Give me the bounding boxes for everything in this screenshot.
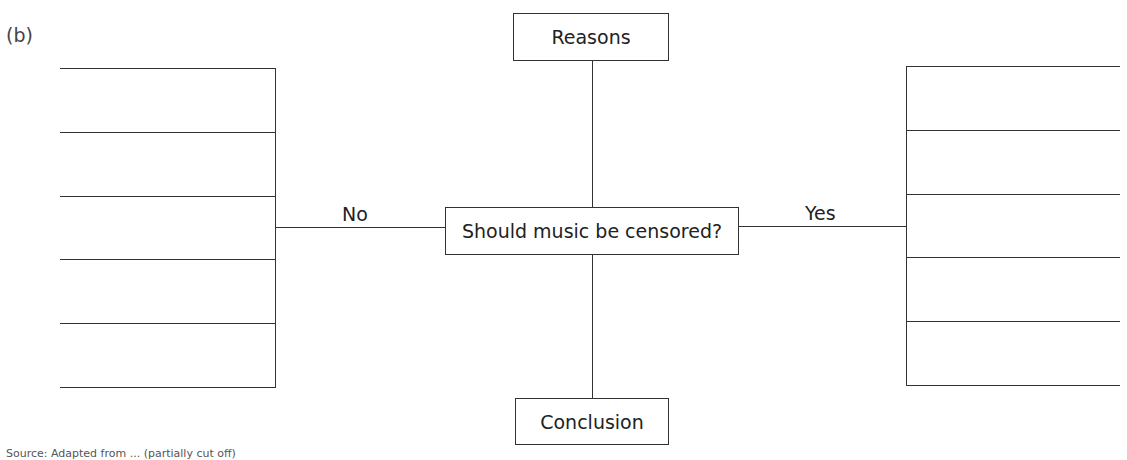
yes-label: Yes — [805, 202, 836, 224]
right-answer-line-1 — [906, 66, 1120, 67]
reasons-label: Reasons — [551, 26, 630, 48]
right-answer-line-4 — [906, 257, 1120, 258]
left-bracket-spine — [275, 68, 276, 387]
no-label: No — [342, 203, 368, 225]
connector-right — [739, 226, 906, 227]
conclusion-box: Conclusion — [515, 398, 669, 445]
right-answer-line-3 — [906, 194, 1120, 195]
central-question-label: Should music be censored? — [462, 220, 722, 242]
left-answer-line-2 — [60, 132, 276, 133]
left-answer-line-3 — [60, 196, 276, 197]
connector-top — [592, 61, 593, 207]
right-bracket-spine — [906, 66, 907, 385]
central-question-box: Should music be censored? — [445, 207, 739, 255]
left-answer-line-1 — [60, 68, 276, 69]
right-answer-line-6 — [906, 385, 1120, 386]
right-answer-line-2 — [906, 130, 1120, 131]
left-answer-line-4 — [60, 259, 276, 260]
source-caption: Source: Adapted from ... (partially cut … — [6, 447, 236, 460]
conclusion-label: Conclusion — [540, 411, 644, 433]
right-answer-line-5 — [906, 321, 1120, 322]
left-answer-line-6 — [60, 387, 276, 388]
connector-left — [275, 227, 445, 228]
panel-label: (b) — [6, 24, 33, 46]
connector-bottom — [592, 255, 593, 398]
reasons-box: Reasons — [513, 13, 669, 61]
left-answer-line-5 — [60, 323, 276, 324]
